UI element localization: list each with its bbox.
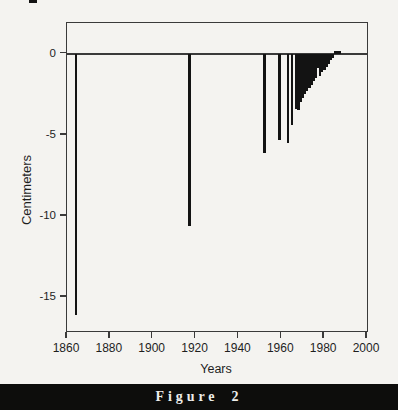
bar-1963 — [287, 54, 289, 143]
bar-1952 — [263, 54, 265, 153]
x-axis-tick — [322, 332, 323, 338]
y-axis-tick — [60, 133, 66, 134]
scanned-figure-page: 0-5-10-151860188019001920194019601980200… — [0, 0, 398, 410]
x-axis-tick — [108, 332, 109, 338]
x-axis-tick-label: 1980 — [305, 341, 341, 355]
x-axis-tick — [237, 332, 238, 338]
x-axis-tick-label: 1920 — [177, 341, 213, 355]
scan-artifact-mark — [29, 0, 37, 3]
y-axis-tick-label: 0 — [28, 46, 56, 60]
figure-caption-band: Figure 2 — [0, 384, 398, 410]
x-axis-tick-label: 1900 — [134, 341, 170, 355]
x-axis-tick-label: 2000 — [348, 341, 384, 355]
x-axis-tick — [151, 332, 152, 338]
y-axis-tick — [60, 295, 66, 296]
y-axis-tick-label: -5 — [28, 127, 56, 141]
bar-1987 — [338, 51, 340, 53]
bar-1959 — [278, 54, 280, 140]
x-axis-tick-label: 1860 — [48, 341, 84, 355]
figure-caption: Figure 2 — [0, 384, 398, 410]
x-axis-tick — [65, 332, 66, 338]
y-axis-title: Centimeters — [19, 155, 34, 225]
x-axis-tick-label: 1960 — [262, 341, 298, 355]
bar-1984 — [332, 54, 334, 58]
x-axis-tick-label: 1940 — [219, 341, 255, 355]
x-axis-title: Years — [66, 362, 366, 376]
plot-area — [66, 22, 368, 332]
y-axis-tick-label: -15 — [28, 289, 56, 303]
bar-1864 — [75, 54, 77, 315]
x-axis-tick-label: 1880 — [91, 341, 127, 355]
bar-1965 — [291, 54, 293, 125]
y-axis-tick — [60, 214, 66, 215]
bar-1917 — [188, 54, 190, 226]
y-axis-tick — [60, 52, 66, 53]
x-axis-tick — [280, 332, 281, 338]
x-axis-tick — [365, 332, 366, 338]
x-axis-tick — [194, 332, 195, 338]
